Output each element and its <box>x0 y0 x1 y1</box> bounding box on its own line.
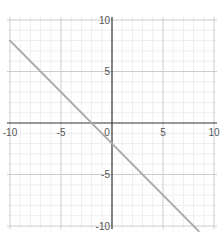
y-tick-label: -5 <box>101 169 110 180</box>
x-tick-label: 5 <box>160 127 166 138</box>
x-tick-label: -5 <box>57 127 66 138</box>
y-tick-label: -10 <box>96 221 111 232</box>
axes <box>7 17 217 229</box>
x-tick-label: 10 <box>208 127 220 138</box>
coordinate-plane: -10-50510105-5-10 <box>0 0 224 242</box>
y-tick-label: 10 <box>99 15 111 26</box>
y-tick-label: 5 <box>104 66 110 77</box>
x-tick-label: -10 <box>3 127 18 138</box>
x-tick-label: 0 <box>104 127 110 138</box>
